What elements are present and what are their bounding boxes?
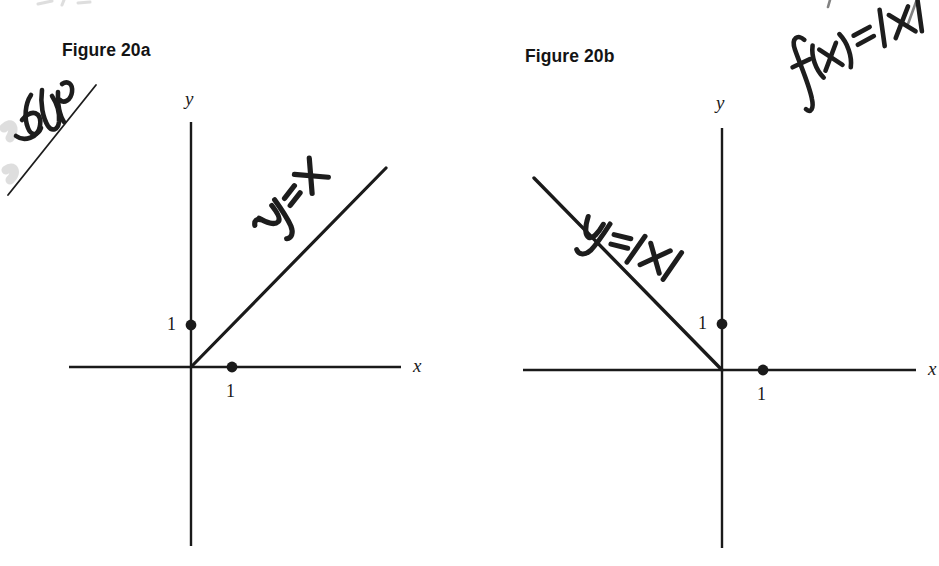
figure-20a-line-y-equals-x [191,168,386,367]
figure-20a-margin-scribble [0,0,939,566]
figure-20b-unit-dot-y [717,319,728,330]
figure-20a-y-tick-label-1: 1 [167,314,176,335]
page-top-edge-cutoff-marks [0,0,939,566]
figure-20b-y-tick-label-1: 1 [698,313,707,334]
figure-20a-unit-dot-y [186,320,197,331]
scanned-textbook-page: Figure 20a y x 1 1 [0,0,939,566]
figure-20a-plot [0,0,939,566]
figure-20a-x-tick-label-1: 1 [226,381,235,402]
figure-20b-handwritten-y-equals-abs-x [0,0,939,566]
figure-20b-x-axis-label: x [928,358,936,380]
figure-20a-handwritten-y-equals-x [0,0,939,566]
figure-20b-plot [0,0,939,566]
figure-20a-unit-dot-x [227,362,238,373]
figure-20b-x-tick-label-1: 1 [757,384,766,405]
figure-20b-caption: Figure 20b [525,46,615,67]
figure-20b-handwritten-f-of-x [0,0,939,566]
figure-20a-caption: Figure 20a [62,40,151,61]
figure-20a-y-axis-label: y [185,88,193,110]
figure-20b-unit-dot-x [758,365,769,376]
figure-20a-x-axis-label: x [413,355,421,377]
figure-20b-y-axis-label: y [716,92,724,114]
figure-20b-line-y-equals-abs-x [534,178,722,370]
